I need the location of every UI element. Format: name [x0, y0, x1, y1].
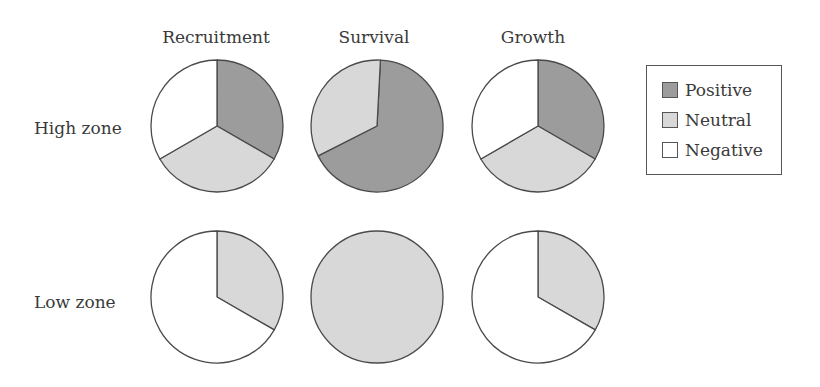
- legend-label: Negative: [685, 140, 763, 160]
- pie-grid: [0, 0, 820, 387]
- pie-high-growth: [472, 60, 604, 192]
- legend-item-neutral: Neutral: [662, 110, 751, 130]
- pie-low-recruitment: [151, 231, 283, 363]
- negative-swatch-icon: [662, 142, 678, 158]
- legend-label: Positive: [685, 80, 752, 100]
- legend: Positive Neutral Negative: [646, 65, 782, 175]
- pie-high-recruitment: [151, 60, 283, 192]
- neutral-swatch-icon: [662, 112, 678, 128]
- pie-low-survival: [311, 231, 443, 363]
- positive-swatch-icon: [662, 82, 678, 98]
- legend-label: Neutral: [685, 110, 751, 130]
- legend-item-negative: Negative: [662, 140, 763, 160]
- legend-item-positive: Positive: [662, 80, 752, 100]
- pie-high-survival: [311, 60, 443, 192]
- pie-slice-neutral: [311, 231, 443, 363]
- pie-low-growth: [472, 231, 604, 363]
